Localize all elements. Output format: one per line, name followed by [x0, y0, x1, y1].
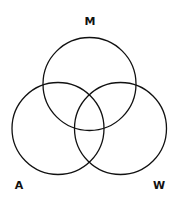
circle-a — [12, 83, 104, 175]
label-a: A — [15, 179, 24, 192]
circle-w — [75, 83, 167, 175]
venn-diagram: M A W — [0, 0, 177, 200]
label-m: M — [85, 15, 96, 28]
label-w: W — [153, 179, 165, 192]
circle-m — [43, 38, 136, 131]
